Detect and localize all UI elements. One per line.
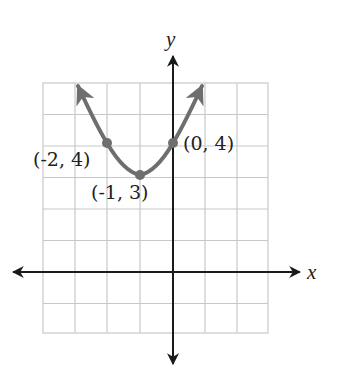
label-neg2-4: (-2, 4) <box>33 148 91 170</box>
grid <box>43 83 268 333</box>
label-neg1-3: (-1, 3) <box>91 181 149 203</box>
label-0-4: (0, 4) <box>183 132 234 154</box>
point-neg2-4 <box>102 138 112 148</box>
y-axis-label: y <box>164 27 176 51</box>
graph: x y (-2, 4) (-1, 3) (0, 4) <box>0 0 337 368</box>
x-axis-label: x <box>306 260 317 284</box>
point-vertex-neg1-3 <box>135 170 145 180</box>
point-0-4 <box>168 138 178 148</box>
